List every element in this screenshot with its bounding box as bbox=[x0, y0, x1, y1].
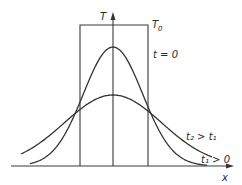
heat-diffusion-diagram: T x T0 t = 0 t₂ > t₁ t₁ > 0 bbox=[0, 0, 242, 185]
narrow-bell-curve bbox=[30, 47, 207, 165]
t-axis-arrow-icon bbox=[111, 12, 116, 20]
t1-gt-0-label: t₁ > 0 bbox=[201, 154, 230, 165]
t-axis-label: T bbox=[100, 11, 107, 22]
x-axis-label: x bbox=[221, 172, 228, 183]
t-equals-0-label: t = 0 bbox=[153, 49, 178, 60]
t2-gt-t1-label: t₂ > t₁ bbox=[186, 131, 217, 142]
t0-label-sub: 0 bbox=[158, 25, 163, 33]
broad-bell-curve bbox=[21, 95, 212, 157]
t0-label: T0 bbox=[152, 19, 163, 33]
